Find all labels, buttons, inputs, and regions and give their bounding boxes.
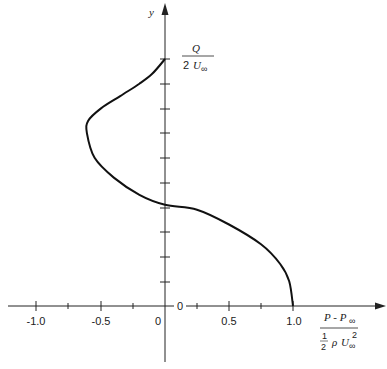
y-axis-label: y [148,6,154,18]
chart-canvas: -1.0 -0.5 0 0.5 1.0 0 y Q 2 U ∞ P - P ∞ … [0,0,387,369]
x-axis-label: P - P ∞ 1 2 ρ U ∞ 2 [320,311,358,352]
svg-text:ρ: ρ [331,336,337,348]
y-axis-arrow-icon [162,3,169,15]
x-tick-label: 1.0 [286,315,301,327]
y-top-label: Q 2 U ∞ [182,42,214,74]
x-axis-arrow-icon [375,303,386,310]
svg-text:∞: ∞ [201,64,207,74]
y-origin-label: 0 [177,300,183,312]
svg-text:1: 1 [322,331,327,341]
x-tick-label: 0 [155,315,161,327]
pressure-curve [86,59,293,306]
svg-text:2: 2 [183,59,189,71]
x-tick-label: -1.0 [27,315,46,327]
svg-text:2: 2 [321,342,326,352]
svg-text:∞: ∞ [349,316,355,326]
x-tick-label: 0.5 [221,315,236,327]
svg-text:2: 2 [352,330,357,340]
svg-text:P - P: P - P [323,311,347,323]
x-tick-label: -0.5 [92,315,111,327]
svg-text:∞: ∞ [349,341,355,351]
svg-text:Q: Q [192,42,200,54]
